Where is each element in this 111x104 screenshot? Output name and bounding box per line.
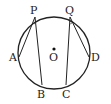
angle-mark-q	[69, 23, 72, 24]
label-q: Q	[65, 4, 74, 17]
chord-qc	[66, 17, 70, 85]
label-a: A	[8, 51, 18, 64]
label-o: O	[49, 51, 58, 64]
label-c: C	[62, 88, 70, 101]
label-d: D	[91, 51, 100, 64]
chord-pb	[35, 17, 42, 85]
label-b: B	[37, 88, 45, 101]
label-p: P	[30, 4, 38, 17]
circle-diagram: P Q A D B C O	[0, 0, 111, 104]
